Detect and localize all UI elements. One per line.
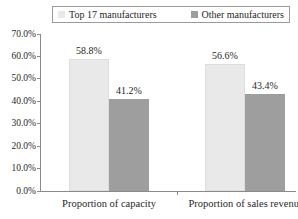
- bar-value-label-top17-sales-revenue: 56.6%: [200, 50, 250, 62]
- x-axis-tick: [177, 191, 178, 195]
- y-axis-tick: [37, 78, 41, 79]
- bar-top17-sales-revenue: [205, 64, 245, 191]
- y-axis-tick: [37, 123, 41, 124]
- legend-label-other: Other manufacturers: [202, 10, 284, 20]
- bar-value-label-other-capacity: 41.2%: [104, 85, 154, 97]
- y-axis-tick-label: 0.0%: [2, 186, 36, 197]
- legend-swatch-other: [191, 11, 198, 18]
- bar-value-label-other-sales-revenue: 43.4%: [240, 80, 290, 92]
- legend-swatch-top17: [58, 11, 65, 18]
- bar-value-label-top17-capacity: 58.8%: [64, 45, 114, 57]
- legend: Top 17 manufacturers Other manufacturers: [52, 6, 290, 23]
- y-axis-tick: [37, 146, 41, 147]
- plot-area: 0.0%10.0%20.0%30.0%40.0%50.0%60.0%70.0%5…: [40, 34, 296, 192]
- y-axis-tick: [37, 191, 41, 192]
- y-axis-tick-label: 40.0%: [2, 96, 36, 107]
- y-axis-tick-label: 70.0%: [2, 29, 36, 40]
- bar-other-sales-revenue: [245, 94, 285, 191]
- bar-top17-capacity: [69, 59, 109, 191]
- y-axis-tick-label: 50.0%: [2, 73, 36, 84]
- y-axis-tick: [37, 101, 41, 102]
- legend-item-top17: Top 17 manufacturers: [58, 10, 157, 20]
- y-axis-tick-label: 60.0%: [2, 51, 36, 62]
- legend-label-top17: Top 17 manufacturers: [69, 10, 157, 20]
- y-axis-tick: [37, 168, 41, 169]
- y-axis-tick-label: 10.0%: [2, 163, 36, 174]
- y-axis-tick-label: 20.0%: [2, 141, 36, 152]
- category-label-sales-revenue: Proportion of sales revenue: [161, 197, 298, 210]
- bar-chart: Top 17 manufacturers Other manufacturers…: [0, 0, 298, 219]
- y-axis-tick: [37, 56, 41, 57]
- y-axis-tick-label: 30.0%: [2, 118, 36, 129]
- legend-item-other: Other manufacturers: [191, 10, 284, 20]
- y-axis-tick: [37, 34, 41, 35]
- bar-other-capacity: [109, 99, 149, 191]
